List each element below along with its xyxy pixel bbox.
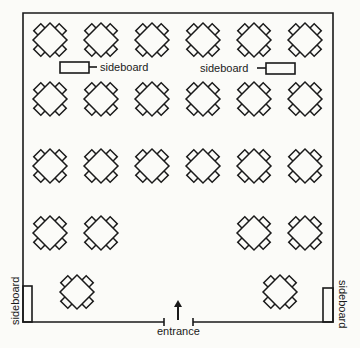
table-with-chairs xyxy=(25,208,76,259)
table-with-chairs xyxy=(229,15,280,66)
table-with-chairs xyxy=(25,74,76,125)
sideboard-top-left xyxy=(60,62,89,73)
table-with-chairs xyxy=(280,208,331,259)
table-with-chairs xyxy=(280,15,331,66)
table-with-chairs xyxy=(52,267,103,318)
table-with-chairs xyxy=(76,74,127,125)
sideboard-label-top-right: sideboard xyxy=(200,63,248,74)
table-with-chairs xyxy=(280,141,331,192)
table-with-chairs xyxy=(127,15,178,66)
table-with-chairs xyxy=(178,141,229,192)
table-with-chairs xyxy=(280,74,331,125)
table-with-chairs xyxy=(255,267,306,318)
sideboard-label-bottom-right: sideboard xyxy=(337,280,348,328)
table-with-chairs xyxy=(76,141,127,192)
table-with-chairs xyxy=(229,141,280,192)
sideboard-label-bottom-left: sideboard xyxy=(10,277,21,325)
floor-plan xyxy=(0,0,360,348)
entrance-arrow-icon xyxy=(174,300,182,320)
table-with-chairs xyxy=(229,208,280,259)
sideboard-bottom-right xyxy=(323,288,333,322)
table-with-chairs xyxy=(229,74,280,125)
table-with-chairs xyxy=(25,141,76,192)
table-with-chairs xyxy=(127,74,178,125)
table-with-chairs xyxy=(178,15,229,66)
sideboard-bottom-left xyxy=(23,286,32,322)
tables-group xyxy=(25,15,331,318)
sideboard-label-top-left: sideboard xyxy=(100,62,148,73)
table-with-chairs xyxy=(25,15,76,66)
table-with-chairs xyxy=(127,141,178,192)
entrance-label: entrance xyxy=(157,326,200,337)
table-with-chairs xyxy=(178,74,229,125)
table-with-chairs xyxy=(76,15,127,66)
sideboard-top-right xyxy=(266,63,295,74)
table-with-chairs xyxy=(76,208,127,259)
